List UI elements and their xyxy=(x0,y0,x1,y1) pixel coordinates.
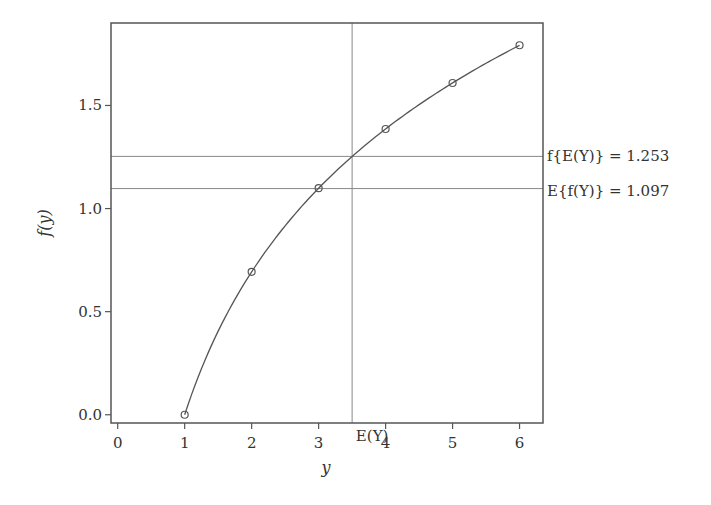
x-axis-ticks: 0123456 xyxy=(113,423,524,452)
y-axis-ticks: 0.00.51.01.5 xyxy=(78,96,111,423)
y-tick-label: 0.0 xyxy=(78,406,102,424)
y-tick-label: 1.0 xyxy=(78,200,102,218)
y-tick-label: 0.5 xyxy=(78,303,102,321)
expected-value-label: E(Y) xyxy=(356,427,389,445)
reference-line-label: f{E(Y)} = 1.253 xyxy=(547,147,669,165)
annotations: E(Y)f{E(Y)} = 1.253E{f(Y)} = 1.097 xyxy=(356,147,669,445)
data-point xyxy=(516,42,523,49)
y-tick-label: 1.5 xyxy=(78,96,102,114)
x-tick-label: 0 xyxy=(113,434,123,452)
x-tick-label: 1 xyxy=(180,434,190,452)
chart: 0123456 0.00.51.01.5 y f(y) E(Y)f{E(Y)} … xyxy=(0,0,711,505)
data-point xyxy=(181,411,188,418)
reference-lines xyxy=(111,23,543,423)
x-tick-label: 6 xyxy=(515,434,525,452)
x-tick-label: 5 xyxy=(448,434,458,452)
reference-line-label: E{f(Y)} = 1.097 xyxy=(547,182,669,200)
plot-frame xyxy=(111,23,543,423)
y-axis-title: f(y) xyxy=(35,209,54,237)
x-tick-label: 3 xyxy=(314,434,324,452)
x-tick-label: 2 xyxy=(247,434,257,452)
x-axis-title: y xyxy=(320,458,331,477)
